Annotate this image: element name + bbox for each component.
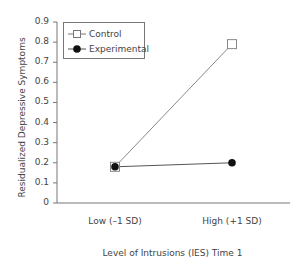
x-tick-label-low: Low (–1 SD) (65, 216, 165, 227)
y-tick-label: 0.1 (25, 177, 49, 187)
experimental-marker-circle (228, 159, 236, 167)
filled-circle-marker-icon (68, 43, 86, 55)
legend-item-control: Control (68, 28, 122, 40)
legend-label-experimental: Experimental (89, 43, 149, 55)
legend: Control Experimental (63, 22, 145, 59)
x-tick-label-high: High (+1 SD) (182, 216, 282, 227)
y-tick-label: 0 (25, 197, 49, 207)
control-series-line (115, 44, 232, 167)
y-tick-label: 0.6 (25, 76, 49, 86)
y-tick-label: 0.9 (25, 16, 49, 26)
open-square-marker-icon (68, 28, 86, 40)
control-marker-square (228, 40, 237, 49)
line-chart: 00.10.20.30.40.50.60.70.80.9 Low (–1 SD)… (0, 0, 307, 261)
y-tick-label: 0.2 (25, 157, 49, 167)
legend-label-control: Control (89, 28, 122, 40)
y-tick-label: 0.7 (25, 56, 49, 66)
x-axis-title: Level of Intrusions (IES) Time 1 (85, 248, 260, 259)
y-tick-label: 0.3 (25, 137, 49, 147)
y-axis-title: Residualized Depressive Symptoms (17, 28, 28, 208)
y-tick-label: 0.4 (25, 117, 49, 127)
experimental-marker-circle (111, 163, 119, 171)
experimental-series-line (115, 163, 232, 167)
y-tick-label: 0.5 (25, 96, 49, 106)
legend-item-experimental: Experimental (68, 43, 149, 55)
y-tick-label: 0.8 (25, 36, 49, 46)
